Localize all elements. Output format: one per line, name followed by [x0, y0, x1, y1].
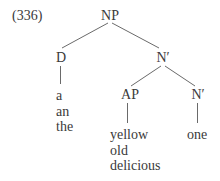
edge-np-nbar	[112, 23, 159, 48]
determiner-terminals: a an the	[56, 88, 73, 135]
terminal-a: a	[56, 88, 73, 104]
edge-np-d	[62, 23, 108, 48]
terminal-the: the	[56, 119, 73, 135]
terminal-one: one	[187, 127, 207, 142]
syntax-tree-diagram: (336) NP D N′ a an the AP N′ yellow old …	[0, 0, 220, 181]
terminal-old: old	[110, 143, 161, 159]
node-d: D	[56, 50, 66, 65]
adjective-terminals: yellow old delicious	[110, 127, 161, 174]
terminal-an: an	[56, 104, 73, 120]
edge-nbar-nbar	[165, 66, 195, 86]
node-nbar-lower: N′	[191, 87, 204, 102]
terminal-delicious: delicious	[110, 158, 161, 174]
example-number: (336)	[12, 8, 42, 23]
terminal-yellow: yellow	[110, 127, 161, 143]
node-nbar: N′	[156, 50, 169, 65]
node-np: NP	[101, 8, 119, 23]
edge-nbar-ap	[131, 66, 161, 86]
node-ap: AP	[121, 87, 139, 102]
